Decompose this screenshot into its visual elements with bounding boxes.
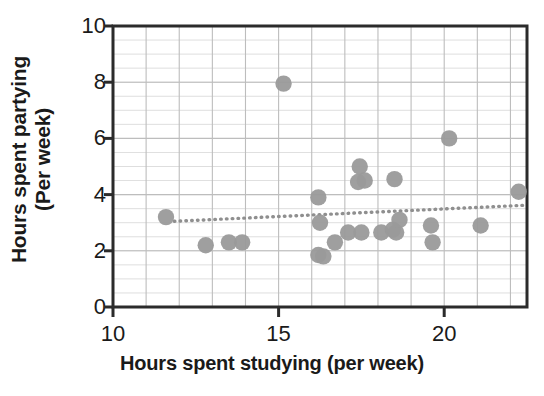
x-axis-title: Hours spent studying (per week) [0,352,544,375]
data-point [310,189,326,205]
trendline [174,205,523,221]
scatter-plot-figure: Hours spent partying (Per week) 0246810 … [0,0,544,396]
data-point [198,237,214,253]
minor-gridlines [113,26,527,307]
data-point [357,172,373,188]
data-point [158,209,174,225]
plot-canvas [0,0,544,396]
data-point-group [158,75,527,264]
data-point [423,217,439,233]
data-point [424,234,440,250]
data-point [312,215,328,231]
data-point [234,234,250,250]
data-point [511,184,527,200]
data-point [472,217,488,233]
data-point [352,158,368,174]
data-point [386,171,402,187]
data-point [275,75,291,91]
data-point [391,212,407,228]
data-point [315,248,331,264]
data-point [441,130,457,146]
trendline-path [174,205,523,221]
data-point [353,224,369,240]
data-point [327,234,343,250]
